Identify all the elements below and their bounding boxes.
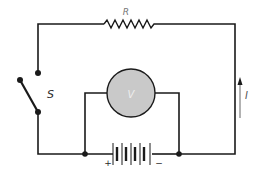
switch-lever-end — [17, 77, 23, 83]
switch-lever — [20, 80, 38, 112]
voltmeter: V — [107, 69, 155, 117]
wire-top-left — [38, 24, 104, 73]
battery-positive-label: + — [104, 158, 112, 168]
switch-label: S — [47, 88, 54, 101]
wire-meter-left — [85, 93, 107, 154]
battery: + − — [104, 143, 163, 168]
resistor: R — [104, 7, 156, 28]
wire-meter-right — [155, 93, 179, 154]
switch-top-terminal — [35, 70, 41, 76]
switch: S — [17, 70, 54, 115]
wire-top-right — [156, 24, 235, 154]
wire-bottom-left — [38, 112, 113, 154]
voltmeter-label: V — [128, 89, 136, 100]
resistor-label: R — [123, 7, 129, 17]
current-label: I — [245, 90, 248, 101]
battery-negative-label: − — [155, 158, 163, 168]
junction-dot-right — [176, 151, 182, 157]
junction-dot-left — [82, 151, 88, 157]
arrow-up-icon — [238, 77, 243, 85]
circuit-diagram: R S V + − I — [0, 0, 254, 170]
resistor-zigzag — [104, 20, 156, 28]
current-arrow: I — [238, 77, 249, 118]
